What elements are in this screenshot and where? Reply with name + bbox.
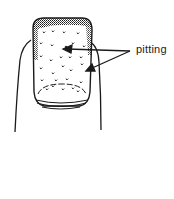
finger-left-edge [15, 40, 31, 132]
nail-pitting-illustration [0, 0, 174, 199]
pitting-label: pitting [136, 43, 167, 55]
arrow-lower [90, 51, 130, 69]
nail-plate [30, 15, 95, 109]
